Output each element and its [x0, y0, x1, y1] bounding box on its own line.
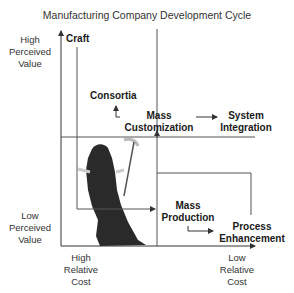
y-axis-low-label: LowPerceivedValue: [2, 210, 58, 246]
x-axis-high-label: HighRelativeCost: [60, 252, 102, 288]
process-enhancement-arrow: [188, 226, 213, 231]
x-axis-low-label: LowRelativeCost: [214, 252, 260, 288]
node-mass-customization: MassCustomization: [123, 110, 195, 134]
node-mass-production: MassProduction: [160, 200, 216, 224]
node-consortia: Consortia: [90, 90, 137, 102]
node-process-enhancement: ProcessEnhancement: [216, 221, 288, 245]
node-system-integration: SystemIntegration: [217, 110, 275, 134]
node-craft: Craft: [66, 33, 89, 45]
consortia-arrow: [116, 106, 120, 117]
grim-reaper-figure: [78, 139, 146, 246]
y-axis-high-label: HighPerceivedValue: [2, 34, 58, 70]
